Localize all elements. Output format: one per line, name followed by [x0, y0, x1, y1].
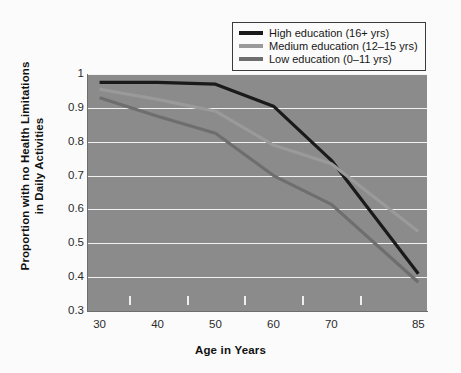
legend-item-label: Low education (0–11 yrs) — [269, 54, 392, 65]
x-axis-minor-tick — [129, 296, 131, 305]
x-axis-minor-tick — [302, 296, 304, 305]
legend-item-label: High education (16+ yrs) — [269, 28, 389, 39]
x-axis-title: Age in Years — [0, 344, 461, 356]
x-axis-tick-label: 40 — [143, 318, 173, 330]
legend-item: Low education (0–11 yrs) — [239, 53, 418, 65]
chart-legend: High education (16+ yrs)Medium education… — [232, 22, 426, 71]
x-axis-tick-label: 50 — [200, 318, 230, 330]
legend-swatch-icon — [239, 57, 263, 61]
legend-item-label: Medium education (12–15 yrs) — [269, 41, 418, 52]
x-axis-tick-label: 60 — [258, 318, 288, 330]
legend-item: Medium education (12–15 yrs) — [239, 40, 418, 52]
x-axis-tick-label: 70 — [316, 318, 346, 330]
legend-swatch-icon — [239, 44, 263, 48]
x-axis-tick-label: 85 — [403, 318, 433, 330]
chart-figure: Proportion with no Health Limitations in… — [0, 0, 461, 373]
legend-item: High education (16+ yrs) — [239, 27, 418, 39]
x-axis-minor-tick — [244, 296, 246, 305]
legend-swatch-icon — [239, 31, 263, 35]
x-axis-minor-tick — [360, 296, 362, 305]
x-axis-minor-tick — [187, 296, 189, 305]
x-axis-tick-label: 30 — [85, 318, 115, 330]
